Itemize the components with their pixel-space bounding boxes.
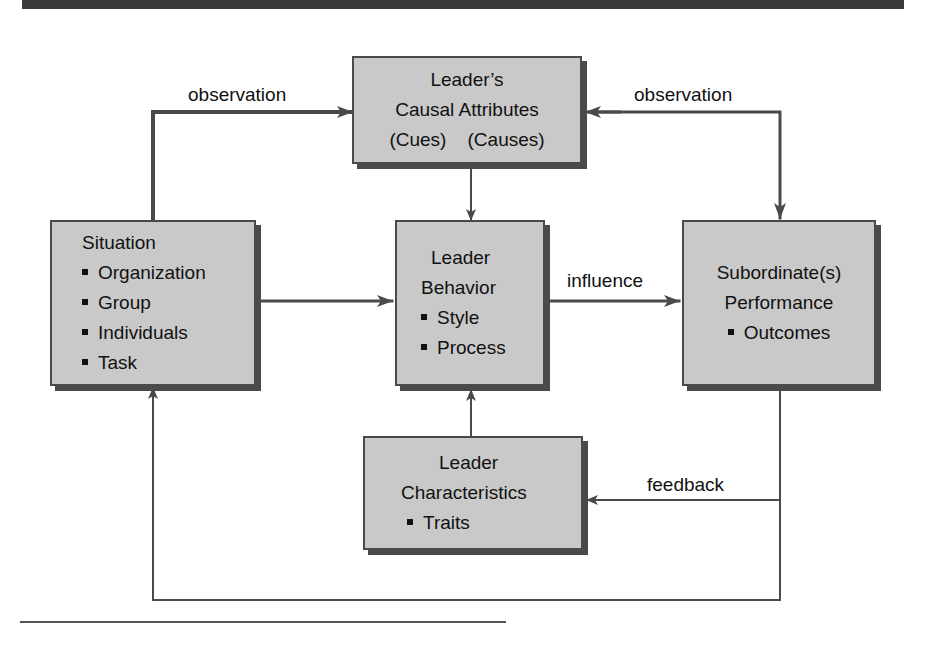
characteristics-title-1: Leader bbox=[401, 448, 581, 478]
edge-situation-to-causal bbox=[153, 112, 352, 218]
bullet-icon bbox=[82, 299, 88, 305]
leader-behavior-title-1: Leader bbox=[421, 243, 543, 273]
situation-item: Task bbox=[82, 348, 254, 378]
bottom-rule bbox=[20, 621, 506, 623]
leader-behavior-box: Leader Behavior Style Process bbox=[395, 220, 545, 386]
influence-label: influence bbox=[567, 270, 643, 292]
subordinate-title-2: Performance bbox=[684, 288, 874, 318]
causal-attributes-box: Leader’s Causal Attributes (Cues) (Cause… bbox=[352, 56, 582, 164]
bullet-icon bbox=[421, 314, 427, 320]
leader-behavior-title-2: Behavior bbox=[421, 273, 543, 303]
bullet-icon bbox=[82, 359, 88, 365]
situation-item: Individuals bbox=[82, 318, 254, 348]
characteristics-item: Traits bbox=[401, 508, 581, 538]
feedback-label: feedback bbox=[647, 474, 724, 496]
bullet-icon bbox=[82, 329, 88, 335]
bullet-icon bbox=[82, 269, 88, 275]
observation-right-label: observation bbox=[634, 84, 732, 106]
subordinate-item: Outcomes bbox=[684, 318, 874, 348]
situation-box: Situation Organization Group Individuals… bbox=[50, 220, 256, 386]
leader-behavior-item: Process bbox=[421, 333, 543, 363]
characteristics-title-2: Characteristics bbox=[401, 478, 581, 508]
subordinate-title-1: Subordinate(s) bbox=[684, 258, 874, 288]
leader-characteristics-box: Leader Characteristics Traits bbox=[363, 436, 583, 550]
causal-attributes-line-3: (Cues) (Causes) bbox=[354, 125, 580, 155]
observation-left-label: observation bbox=[188, 84, 286, 106]
causal-attributes-line-1: Leader’s bbox=[354, 65, 580, 95]
subordinate-performance-box: Subordinate(s) Performance Outcomes bbox=[682, 220, 876, 386]
edge-subordinate-causal-observation bbox=[590, 112, 780, 218]
bullet-icon bbox=[728, 329, 734, 335]
bullet-icon bbox=[407, 519, 413, 525]
bullet-icon bbox=[421, 344, 427, 350]
causal-attributes-line-2: Causal Attributes bbox=[354, 95, 580, 125]
situation-item: Organization bbox=[82, 258, 254, 288]
leader-behavior-item: Style bbox=[421, 303, 543, 333]
situation-item: Group bbox=[82, 288, 254, 318]
situation-title: Situation bbox=[82, 228, 254, 258]
